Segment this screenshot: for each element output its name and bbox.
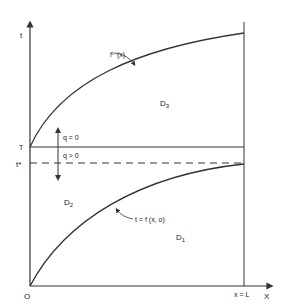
q-positive-label: q > 0 [63, 152, 79, 160]
curve-f-x-0-label: t = f (x, o) [135, 216, 165, 224]
x-L-label: x = L [234, 291, 249, 298]
curve-f0 [30, 33, 244, 147]
region-D3: D3 [160, 99, 170, 109]
origin-label: O [24, 292, 30, 301]
region-D1: D1 [176, 233, 186, 243]
tstar-label: t* [16, 160, 21, 169]
T-label: T [19, 144, 24, 151]
x-axis-label: X [264, 292, 270, 301]
y-axis-label: t [20, 31, 23, 40]
curve-f-x-0 [30, 164, 244, 286]
phase-diagram: t X O x = L T t* f⁰ (x) t = f (x, o) q =… [0, 0, 285, 308]
curve-f-x-0-pointer [117, 210, 133, 219]
region-D2: D2 [64, 198, 74, 208]
q-zero-label: q = 0 [63, 134, 79, 142]
